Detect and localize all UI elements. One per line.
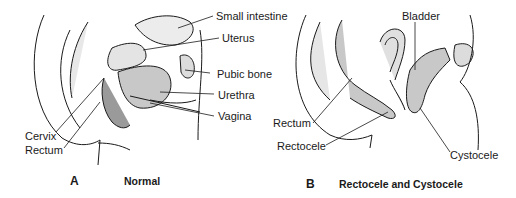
label-uterus: Uterus xyxy=(222,32,254,44)
label-small-intestine: Small intestine xyxy=(216,10,288,22)
panel-b-letter: B xyxy=(306,177,315,191)
panel-a-drawing xyxy=(34,15,202,165)
label-vagina: Vagina xyxy=(218,110,251,122)
label-rectum-a: Rectum xyxy=(25,144,63,156)
label-rectum-b: Rectum xyxy=(273,117,311,129)
anatomy-illustration xyxy=(0,0,516,198)
label-urethra: Urethra xyxy=(218,89,255,101)
label-cervix: Cervix xyxy=(25,130,56,142)
label-rectocele: Rectocele xyxy=(277,140,326,152)
panel-a-caption: Normal xyxy=(124,175,160,187)
label-cystocele: Cystocele xyxy=(450,149,498,161)
label-pubic-bone: Pubic bone xyxy=(217,68,272,80)
label-bladder: Bladder xyxy=(402,10,440,22)
panel-a-letter: A xyxy=(70,174,79,188)
panel-b-caption: Rectocele and Cystocele xyxy=(339,178,463,190)
panel-b-drawing xyxy=(296,15,478,150)
